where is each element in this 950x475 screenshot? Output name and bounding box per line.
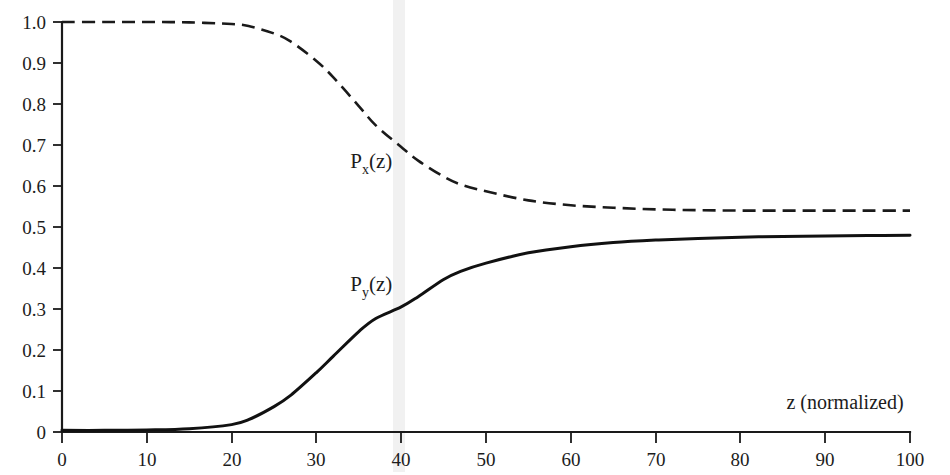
y-tick-labels: 1.0 0.9 0.8 0.7 0.6 0.5 0.4 0.3 0.2 0.1 … xyxy=(22,12,46,443)
figure-container: 1.0 0.9 0.8 0.7 0.6 0.5 0.4 0.3 0.2 0.1 … xyxy=(0,0,950,475)
x-tick-label: 0 xyxy=(57,449,67,470)
y-tick-marks xyxy=(53,22,62,432)
x-tick-label: 100 xyxy=(896,449,925,470)
x-tick-label: 10 xyxy=(138,449,157,470)
x-tick-label: 20 xyxy=(223,449,242,470)
y-tick-label: 0.7 xyxy=(22,135,46,156)
x-tick-label: 60 xyxy=(562,449,581,470)
y-tick-label: 0 xyxy=(37,422,47,443)
x-tick-marks xyxy=(62,432,910,443)
x-tick-label: 90 xyxy=(816,449,835,470)
y-tick-label: 0.6 xyxy=(22,176,46,197)
y-tick-label: 0.5 xyxy=(22,217,46,238)
plot-canvas: 1.0 0.9 0.8 0.7 0.6 0.5 0.4 0.3 0.2 0.1 … xyxy=(0,0,950,475)
curve-label-py: Py(z) xyxy=(350,272,392,300)
x-tick-label: 50 xyxy=(477,449,496,470)
series-line-px xyxy=(62,22,910,211)
curve-label-px: Px(z) xyxy=(350,149,392,177)
x-tick-label: 80 xyxy=(731,449,750,470)
y-tick-label: 0.4 xyxy=(22,258,46,279)
x-tick-label: 30 xyxy=(307,449,326,470)
x-tick-label: 40 xyxy=(392,449,411,470)
y-tick-label: 0.2 xyxy=(22,340,46,361)
y-tick-label: 1.0 xyxy=(22,12,46,33)
x-tick-label: 70 xyxy=(647,449,666,470)
x-tick-labels: 0 10 20 30 40 50 60 70 80 90 100 xyxy=(57,449,924,470)
scan-artifact-band xyxy=(393,0,405,472)
x-axis-title: z (normalized) xyxy=(786,391,903,414)
y-tick-label: 0.8 xyxy=(22,94,46,115)
y-tick-label: 0.1 xyxy=(22,381,46,402)
series-line-py xyxy=(62,235,910,430)
y-tick-label: 0.9 xyxy=(22,53,46,74)
y-tick-label: 0.3 xyxy=(22,299,46,320)
